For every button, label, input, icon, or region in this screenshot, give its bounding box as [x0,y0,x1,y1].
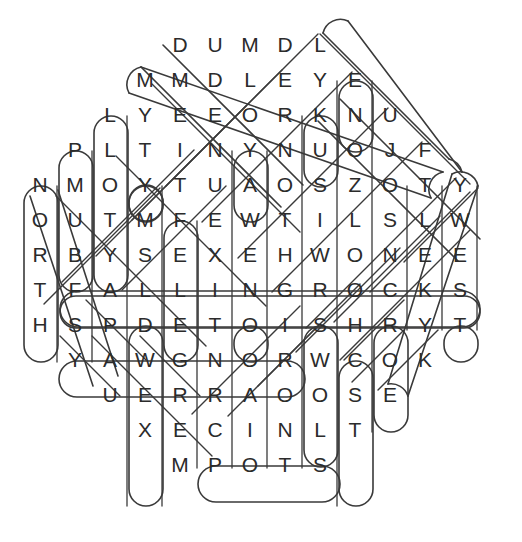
grid-cell-r4-c5[interactable]: I [167,137,193,163]
grid-cell-r3-c9[interactable]: K [307,102,333,128]
grid-cell-r4-c9[interactable]: U [307,137,333,163]
grid-cell-r13-c6[interactable]: P [202,452,228,478]
grid-cell-r11-c4[interactable]: E [132,382,158,408]
grid-cell-r9-c3[interactable]: P [97,312,123,338]
grid-cell-r3-c10[interactable]: N [342,102,368,128]
grid-cell-r4-c8[interactable]: N [272,137,298,163]
grid-cell-r9-c5[interactable]: E [167,312,193,338]
grid-cell-r11-c5[interactable]: R [167,382,193,408]
grid-cell-r3-c4[interactable]: Y [132,102,158,128]
grid-cell-r8-c8[interactable]: G [272,277,298,303]
grid-cell-r7-c6[interactable]: X [202,242,228,268]
grid-cell-r12-c4[interactable]: X [132,417,158,443]
grid-cell-r7-c3[interactable]: Y [97,242,123,268]
grid-cell-r5-c11[interactable]: O [377,172,403,198]
grid-cell-r4-c11[interactable]: J [377,137,403,163]
grid-cell-r2-c8[interactable]: E [272,67,298,93]
grid-cell-r7-c8[interactable]: H [272,242,298,268]
grid-cell-r9-c11[interactable]: R [377,312,403,338]
grid-cell-r10-c12[interactable]: K [412,347,438,373]
grid-cell-r10-c11[interactable]: O [377,347,403,373]
grid-cell-r3-c11[interactable]: U [377,102,403,128]
grid-cell-r12-c6[interactable]: C [202,417,228,443]
grid-cell-r9-c12[interactable]: Y [412,312,438,338]
grid-cell-r9-c10[interactable]: H [342,312,368,338]
grid-cell-r2-c4[interactable]: M [132,67,158,93]
grid-cell-r10-c10[interactable]: C [342,347,368,373]
grid-cell-r2-c6[interactable]: D [202,67,228,93]
grid-cell-r3-c3[interactable]: L [97,102,123,128]
grid-cell-r3-c7[interactable]: O [237,102,263,128]
grid-cell-r4-c2[interactable]: P [62,137,88,163]
grid-cell-r4-c10[interactable]: O [342,137,368,163]
grid-cell-r6-c1[interactable]: O [27,207,53,233]
grid-cell-r13-c9[interactable]: S [307,452,333,478]
grid-cell-r8-c6[interactable]: I [202,277,228,303]
grid-cell-r7-c5[interactable]: E [167,242,193,268]
grid-cell-r5-c12[interactable]: T [412,172,438,198]
grid-cell-r6-c6[interactable]: E [202,207,228,233]
grid-cell-r5-c9[interactable]: S [307,172,333,198]
grid-cell-r11-c6[interactable]: R [202,382,228,408]
grid-cell-r6-c5[interactable]: F [167,207,193,233]
grid-cell-r7-c10[interactable]: O [342,242,368,268]
grid-cell-r5-c2[interactable]: M [62,172,88,198]
grid-cell-r5-c4[interactable]: Y [132,172,158,198]
grid-cell-r7-c1[interactable]: R [27,242,53,268]
grid-cell-r8-c5[interactable]: L [167,277,193,303]
grid-cell-r7-c7[interactable]: E [237,242,263,268]
grid-cell-r1-c7[interactable]: M [237,32,263,58]
grid-cell-r10-c4[interactable]: W [132,347,158,373]
grid-cell-r1-c5[interactable]: D [167,32,193,58]
grid-cell-r10-c8[interactable]: R [272,347,298,373]
grid-cell-r13-c5[interactable]: M [167,452,193,478]
grid-cell-r7-c12[interactable]: E [412,242,438,268]
grid-cell-r13-c7[interactable]: O [237,452,263,478]
grid-cell-r9-c13[interactable]: T [447,312,473,338]
grid-cell-r8-c13[interactable]: S [447,277,473,303]
grid-cell-r9-c1[interactable]: H [27,312,53,338]
grid-cell-r7-c11[interactable]: N [377,242,403,268]
grid-cell-r2-c10[interactable]: E [342,67,368,93]
grid-cell-r5-c10[interactable]: Z [342,172,368,198]
grid-cell-r8-c2[interactable]: F [62,277,88,303]
grid-cell-r3-c6[interactable]: E [202,102,228,128]
grid-cell-r12-c9[interactable]: L [307,417,333,443]
grid-cell-r11-c9[interactable]: O [307,382,333,408]
grid-cell-r11-c3[interactable]: U [97,382,123,408]
grid-cell-r12-c8[interactable]: N [272,417,298,443]
grid-cell-r13-c8[interactable]: T [272,452,298,478]
grid-cell-r5-c13[interactable]: Y [447,172,473,198]
grid-cell-r5-c8[interactable]: O [272,172,298,198]
grid-cell-r3-c5[interactable]: E [167,102,193,128]
grid-cell-r8-c4[interactable]: L [132,277,158,303]
grid-cell-r7-c9[interactable]: W [307,242,333,268]
grid-cell-r10-c7[interactable]: O [237,347,263,373]
grid-cell-r8-c12[interactable]: K [412,277,438,303]
grid-cell-r9-c7[interactable]: O [237,312,263,338]
grid-cell-r10-c5[interactable]: G [167,347,193,373]
grid-cell-r2-c9[interactable]: Y [307,67,333,93]
grid-cell-r12-c10[interactable]: T [342,417,368,443]
grid-cell-r6-c10[interactable]: L [342,207,368,233]
grid-cell-r8-c7[interactable]: N [237,277,263,303]
grid-cell-r6-c8[interactable]: T [272,207,298,233]
grid-cell-r8-c3[interactable]: A [97,277,123,303]
grid-cell-r8-c11[interactable]: C [377,277,403,303]
grid-cell-r1-c9[interactable]: L [307,32,333,58]
grid-cell-r10-c6[interactable]: N [202,347,228,373]
grid-cell-r7-c13[interactable]: E [447,242,473,268]
grid-cell-r9-c8[interactable]: I [272,312,298,338]
grid-cell-r2-c5[interactable]: M [167,67,193,93]
grid-cell-r6-c2[interactable]: U [62,207,88,233]
grid-cell-r6-c3[interactable]: T [97,207,123,233]
grid-cell-r10-c9[interactable]: W [307,347,333,373]
grid-cell-r11-c7[interactable]: A [237,382,263,408]
grid-cell-r5-c5[interactable]: T [167,172,193,198]
grid-cell-r4-c3[interactable]: L [97,137,123,163]
grid-cell-r6-c9[interactable]: I [307,207,333,233]
grid-cell-r1-c6[interactable]: U [202,32,228,58]
grid-cell-r6-c7[interactable]: W [237,207,263,233]
grid-cell-r7-c2[interactable]: B [62,242,88,268]
grid-cell-r9-c9[interactable]: S [307,312,333,338]
